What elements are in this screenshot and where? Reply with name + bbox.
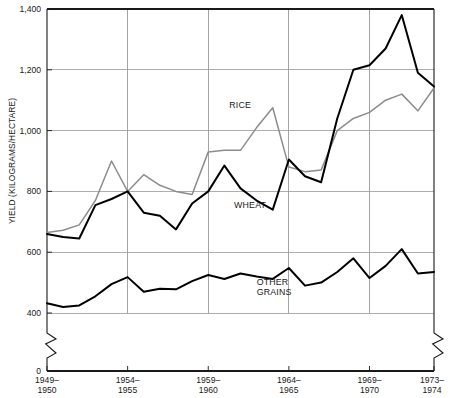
- y-tick-label-1000: 1,000: [19, 126, 41, 136]
- series-label-line-0: OTHER: [257, 277, 289, 287]
- y-tick-label-1200: 1,200: [19, 65, 41, 75]
- x-tick-label-bottom-4: 1970: [360, 385, 379, 395]
- x-tick-label-top-3: 1964–: [277, 375, 301, 385]
- x-tick-label-bottom-3: 1965: [279, 385, 298, 395]
- x-tick-label-bottom-1: 1955: [118, 385, 137, 395]
- series-label-line-0: WHEAT: [234, 200, 267, 210]
- y-axis-right-with-break: [433, 9, 443, 371]
- x-tick-label-group-4: 1969–1970: [358, 375, 382, 395]
- x-tick-label-group-2: 1959–1960: [196, 375, 220, 395]
- x-tick-label-top-0: 1949–: [35, 375, 59, 385]
- x-tick-label-top-4: 1969–: [358, 375, 382, 385]
- series-label-rice: RICE: [229, 100, 251, 110]
- series-label-line-1: GRAINS: [257, 287, 292, 297]
- y-axis-title: YIELD (KILOGRAMS/HECTARE): [7, 98, 17, 224]
- x-tick-label-group-5: 1973–1974: [420, 375, 444, 395]
- yield-line-chart: 04006008001,0001,2001,400 1949–19501954–…: [0, 0, 450, 398]
- x-tick-label-group-0: 1949–1950: [35, 375, 59, 395]
- x-tick-label-bottom-2: 1960: [199, 385, 218, 395]
- y-tick-label-800: 800: [27, 186, 42, 196]
- y-tick-label-400: 400: [27, 308, 42, 318]
- series-label-line-0: RICE: [229, 100, 251, 110]
- series-label-other-grains: OTHERGRAINS: [257, 277, 292, 297]
- x-tick-label-group-3: 1964–1965: [277, 375, 301, 395]
- x-tick-label-group-1: 1954–1955: [116, 375, 140, 395]
- y-tick-label-600: 600: [27, 247, 42, 257]
- x-tick-label-top-1: 1954–: [116, 375, 140, 385]
- x-tick-label-bottom-5: 1974: [422, 385, 441, 395]
- plot-background: [47, 9, 434, 313]
- series-label-wheat: WHEAT: [234, 200, 267, 210]
- x-axis-tick-labels: 1949–19501954–19551959–19601964–19651969…: [35, 375, 444, 395]
- x-tick-label-bottom-0: 1950: [37, 385, 56, 395]
- x-tick-label-top-5: 1973–: [420, 375, 444, 385]
- chart-container: 04006008001,0001,2001,400 1949–19501954–…: [0, 0, 450, 398]
- x-tick-label-top-2: 1959–: [196, 375, 220, 385]
- y-tick-label-1400: 1,400: [19, 4, 41, 14]
